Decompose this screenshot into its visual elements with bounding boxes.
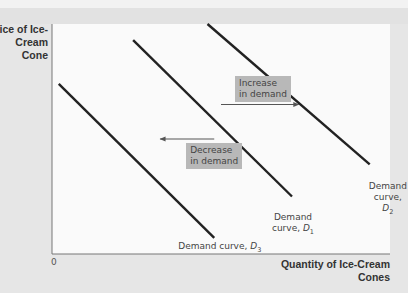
annotation-line-2: in demand [239, 89, 287, 100]
annotation-line-2: in demand [190, 156, 238, 167]
curve-label-line-2: curve, D2 [368, 192, 408, 218]
curve-label-d3: Demand curve, D3 [178, 241, 261, 256]
increase-demand-annotation: Increase in demand [235, 76, 291, 102]
annotation-line-1: Decrease [190, 145, 238, 156]
curve-label-d2: Demandcurve, D2 [368, 181, 408, 218]
curve-label-line-1: Demand [368, 181, 408, 192]
demand-curve-d1 [133, 40, 292, 196]
demand-curves [59, 24, 370, 238]
curve-label-line-1: Demand [272, 212, 314, 223]
curve-label-d1: Demandcurve, D1 [272, 212, 314, 238]
annotation-line-1: Increase [239, 78, 287, 89]
curve-label-line-2: curve, D1 [272, 223, 314, 238]
decrease-demand-annotation: Decrease in demand [186, 143, 242, 169]
